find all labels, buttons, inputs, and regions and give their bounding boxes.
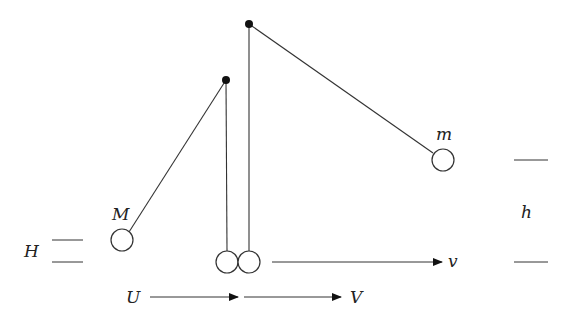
ball-m-bottom bbox=[238, 251, 260, 273]
label-V: V bbox=[350, 287, 364, 307]
label-U: U bbox=[126, 287, 141, 307]
string-M-raised bbox=[129, 80, 226, 232]
pendulum-diagram: M m H h U V v bbox=[0, 0, 575, 318]
ball-m-raised bbox=[432, 149, 454, 171]
label-H: H bbox=[23, 241, 40, 261]
pivot-large-icon bbox=[245, 20, 253, 28]
label-v: v bbox=[448, 251, 458, 271]
ball-M-raised bbox=[111, 229, 133, 251]
label-h: h bbox=[521, 202, 532, 222]
string-m-raised bbox=[249, 24, 433, 153]
strings bbox=[129, 24, 433, 251]
pivot-small-icon bbox=[222, 76, 230, 84]
label-M: M bbox=[111, 204, 130, 224]
label-m: m bbox=[436, 124, 452, 144]
ball-M-bottom bbox=[216, 251, 238, 273]
string-M-bottom bbox=[226, 80, 227, 251]
